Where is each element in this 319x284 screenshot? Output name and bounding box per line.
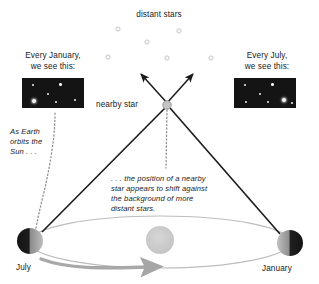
- distant-star: [145, 40, 149, 44]
- photo-star: [74, 99, 76, 101]
- distant-star: [177, 29, 181, 33]
- photo-star: [271, 83, 274, 86]
- sightline-january: [170, 108, 280, 234]
- distant-star: [209, 56, 213, 60]
- center-note-line-1: . . . the position of a nearby: [111, 174, 206, 184]
- nearby-star-label: nearby star: [96, 100, 138, 110]
- earth-july: [17, 228, 43, 254]
- label-july: July: [16, 263, 31, 273]
- photo-star: [55, 101, 57, 103]
- distant-star: [106, 55, 110, 59]
- photo-star: [291, 102, 293, 104]
- photo-star: [32, 99, 36, 103]
- diagram-vector-layer: [0, 0, 319, 284]
- january-sky-photo: [22, 78, 84, 108]
- photo-star: [259, 93, 261, 95]
- sun: [146, 226, 174, 254]
- photo-star: [47, 93, 49, 95]
- star-dotted-leader: [166, 110, 167, 168]
- earth-january: [277, 230, 303, 256]
- photo-star: [32, 84, 34, 86]
- july-sky-photo: [234, 78, 296, 108]
- orbit-direction-arrow: [41, 259, 147, 268]
- photo-star: [245, 101, 247, 103]
- apparent-shift-arrow-right: [166, 74, 193, 104]
- distant-star: [116, 27, 120, 31]
- left-caption-line-2: we see this:: [10, 62, 96, 72]
- right-caption-line-1: Every July,: [224, 51, 310, 61]
- right-caption-line-2: we see this:: [224, 62, 310, 72]
- center-note-line-4: distant stars.: [111, 204, 155, 214]
- center-note-line-2: star appears to shift against: [111, 184, 207, 194]
- distant-stars-label: distant stars: [109, 10, 209, 20]
- center-note-line-3: the background of more: [111, 194, 193, 204]
- photo-star: [59, 83, 62, 86]
- photo-star: [244, 84, 246, 86]
- left-note-line-3: Sun . . .: [10, 147, 37, 157]
- label-january: January: [262, 264, 292, 274]
- photo-star: [282, 98, 286, 102]
- left-caption-line-1: Every January,: [10, 51, 96, 61]
- distant-stars-group: [106, 27, 213, 60]
- photo-star: [267, 101, 269, 103]
- distant-star: [165, 56, 169, 60]
- apparent-shift-arrow-left: [141, 74, 168, 104]
- left-note-line-2: orbits the: [10, 137, 42, 147]
- left-note-line-1: As Earth: [10, 127, 40, 137]
- nearby-star: [163, 101, 171, 109]
- parallax-diagram: distant stars Every January, we see this…: [0, 0, 319, 284]
